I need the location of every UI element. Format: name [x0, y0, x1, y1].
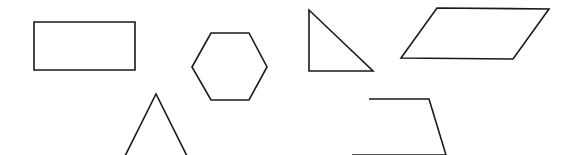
trapezoid-shape: [352, 99, 446, 155]
shapes-canvas: [0, 0, 566, 155]
isosceles-triangle-shape: [125, 94, 187, 155]
rectangle-shape: [34, 22, 135, 70]
right-triangle-shape: [309, 10, 373, 71]
hexagon-shape: [192, 33, 267, 100]
parallelogram-shape: [401, 8, 549, 59]
